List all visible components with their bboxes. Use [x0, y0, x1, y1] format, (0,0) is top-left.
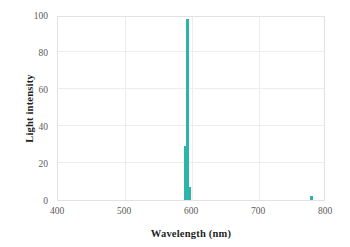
- x-axis-tick-label: 800: [305, 206, 345, 216]
- gridline-vertical: [125, 17, 126, 200]
- y-axis-title: Light intensity: [24, 16, 38, 201]
- x-axis-tick-label: 600: [171, 206, 211, 216]
- x-axis-tick-label: 700: [238, 206, 278, 216]
- gridline-vertical: [58, 17, 59, 200]
- gridline-horizontal: [58, 51, 324, 52]
- x-axis-tick-label: 500: [104, 206, 144, 216]
- gridline-vertical: [259, 17, 260, 200]
- gridline-horizontal: [58, 88, 324, 89]
- plot-area: [57, 16, 325, 201]
- spectrum-chart-screenshot: 020406080100 Light intensity 40050060070…: [0, 0, 350, 247]
- bar: [186, 19, 189, 200]
- x-axis-title: Wavelength (nm): [57, 228, 325, 239]
- gridline-vertical: [326, 17, 327, 200]
- gridline-horizontal: [58, 14, 324, 15]
- x-axis-tick-label: 400: [37, 206, 77, 216]
- bar: [310, 196, 313, 200]
- bar: [188, 187, 191, 200]
- gridline-horizontal: [58, 125, 324, 126]
- gridline-vertical: [192, 17, 193, 200]
- gridline-horizontal: [58, 162, 324, 163]
